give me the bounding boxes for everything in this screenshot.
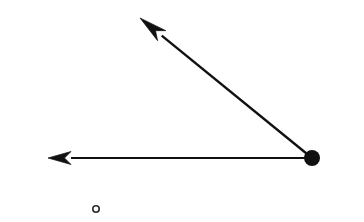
- angle-diagram-canvas: Angle formed by two rays: [0, 0, 364, 222]
- vertex-dot: [304, 150, 320, 166]
- angle-diagram-svg: Angle formed by two rays: [0, 0, 364, 222]
- diagram-background: [0, 0, 364, 222]
